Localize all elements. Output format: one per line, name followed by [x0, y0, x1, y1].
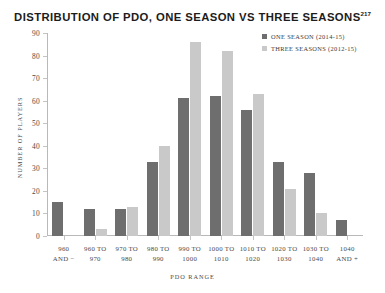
x-tick-label: 970 TO 980	[111, 237, 143, 263]
bars-layer	[48, 33, 363, 236]
y-tick-label-60: 60	[32, 96, 40, 105]
bar-group	[80, 33, 112, 236]
bar-group	[332, 33, 364, 236]
bar-group	[143, 33, 175, 236]
y-axis: NUMBER OF PLAYERS 0102030405060708090	[0, 33, 47, 236]
x-tick-mark	[347, 236, 348, 240]
x-tick-mark	[64, 236, 65, 240]
y-tick-label-10: 10	[32, 209, 40, 218]
x-tick-label: 960 AND −	[48, 237, 80, 263]
bar[interactable]	[96, 229, 107, 236]
bar-group	[300, 33, 332, 236]
legend-swatch-icon	[262, 34, 267, 39]
y-tick-label-50: 50	[32, 119, 40, 128]
bar[interactable]	[253, 94, 264, 236]
x-tick-label: 1000 TO 1010	[206, 237, 238, 263]
chart-title-text: DISTRIBUTION OF PDO, ONE SEASON VS THREE…	[14, 11, 361, 23]
y-tick-label-80: 80	[32, 51, 40, 60]
x-tick: 1010 TO 1020	[237, 237, 269, 273]
x-tick-mark	[158, 236, 159, 240]
y-tick-label-20: 20	[32, 186, 40, 195]
bar[interactable]	[210, 96, 221, 236]
bar-group	[48, 33, 80, 236]
bar-group	[269, 33, 301, 236]
bar[interactable]	[222, 51, 233, 236]
x-tick: 990 TO 1000	[174, 237, 206, 273]
x-tick: 960 TO 970	[80, 237, 112, 273]
x-tick: 1040 AND +	[332, 237, 364, 273]
bar[interactable]	[241, 110, 252, 236]
bar[interactable]	[273, 162, 284, 236]
x-tick-mark	[316, 236, 317, 240]
bar[interactable]	[285, 189, 296, 236]
legend-label: THREE SEASONS (2012-15)	[271, 45, 357, 52]
chart-title-superscript: 217	[361, 10, 371, 17]
x-tick-label: 1010 TO 1020	[237, 237, 269, 263]
x-tick: 960 AND −	[48, 237, 80, 273]
bar[interactable]	[115, 209, 126, 236]
bar[interactable]	[52, 202, 63, 236]
x-tick-label: 1020 TO 1030	[269, 237, 301, 263]
bar-group	[206, 33, 238, 236]
chart-legend: ONE SEASON (2014-15)THREE SEASONS (2012-…	[262, 33, 357, 57]
y-tick-label-30: 30	[32, 164, 40, 173]
bar[interactable]	[336, 220, 347, 236]
x-tick: 1020 TO 1030	[269, 237, 301, 273]
x-tick: 1030 TO 1040	[300, 237, 332, 273]
chart-container: DISTRIBUTION OF PDO, ONE SEASON VS THREE…	[0, 0, 385, 293]
x-tick-label: 990 TO 1000	[174, 237, 206, 263]
chart-title: DISTRIBUTION OF PDO, ONE SEASON VS THREE…	[0, 10, 385, 23]
y-tick-label-0: 0	[36, 232, 40, 241]
bar-group	[237, 33, 269, 236]
x-tick-mark	[284, 236, 285, 240]
x-tick-mark	[127, 236, 128, 240]
x-tick-label: 1040 AND +	[332, 237, 364, 263]
y-tick-label-40: 40	[32, 141, 40, 150]
bar[interactable]	[304, 173, 315, 236]
legend-item[interactable]: ONE SEASON (2014-15)	[262, 33, 357, 40]
bar[interactable]	[316, 213, 327, 236]
bar[interactable]	[147, 162, 158, 236]
bar[interactable]	[84, 209, 95, 236]
bar[interactable]	[178, 98, 189, 236]
y-tick-mark-0	[43, 236, 47, 237]
bar[interactable]	[159, 146, 170, 236]
x-tick-mark	[253, 236, 254, 240]
x-tick-label: 1030 TO 1040	[300, 237, 332, 263]
bar-group	[111, 33, 143, 236]
x-tick: 1000 TO 1010	[206, 237, 238, 273]
legend-swatch-icon	[262, 46, 267, 51]
x-tick-mark	[190, 236, 191, 240]
bar-group	[174, 33, 206, 236]
bar[interactable]	[190, 42, 201, 236]
x-tick-label: 960 TO 970	[80, 237, 112, 263]
x-axis-title: PDO RANGE	[0, 273, 385, 280]
y-tick-label-70: 70	[32, 74, 40, 83]
x-axis: 960 AND −960 TO 970970 TO 980980 TO 9909…	[48, 237, 363, 273]
x-tick: 980 TO 990	[143, 237, 175, 273]
x-tick: 970 TO 980	[111, 237, 143, 273]
y-tick-label-90: 90	[32, 29, 40, 38]
legend-label: ONE SEASON (2014-15)	[271, 33, 345, 40]
bar[interactable]	[127, 207, 138, 236]
legend-item[interactable]: THREE SEASONS (2012-15)	[262, 45, 357, 52]
x-tick-label: 980 TO 990	[143, 237, 175, 263]
x-tick-mark	[95, 236, 96, 240]
y-axis-title: NUMBER OF PLAYERS	[16, 68, 23, 208]
x-tick-mark	[221, 236, 222, 240]
